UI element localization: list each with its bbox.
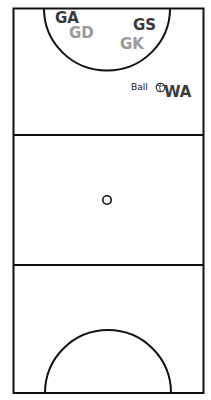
netball-court (0, 0, 211, 400)
player-gd[interactable]: GD (69, 26, 94, 41)
player-wa[interactable]: WA (164, 85, 191, 100)
player-gs[interactable]: GS (133, 18, 156, 33)
player-gk[interactable]: GK (120, 37, 144, 52)
ball-label: Ball (131, 83, 148, 92)
court-boundary (14, 9, 204, 394)
center-circle (103, 196, 111, 204)
goal-circle-bottom (45, 330, 171, 393)
